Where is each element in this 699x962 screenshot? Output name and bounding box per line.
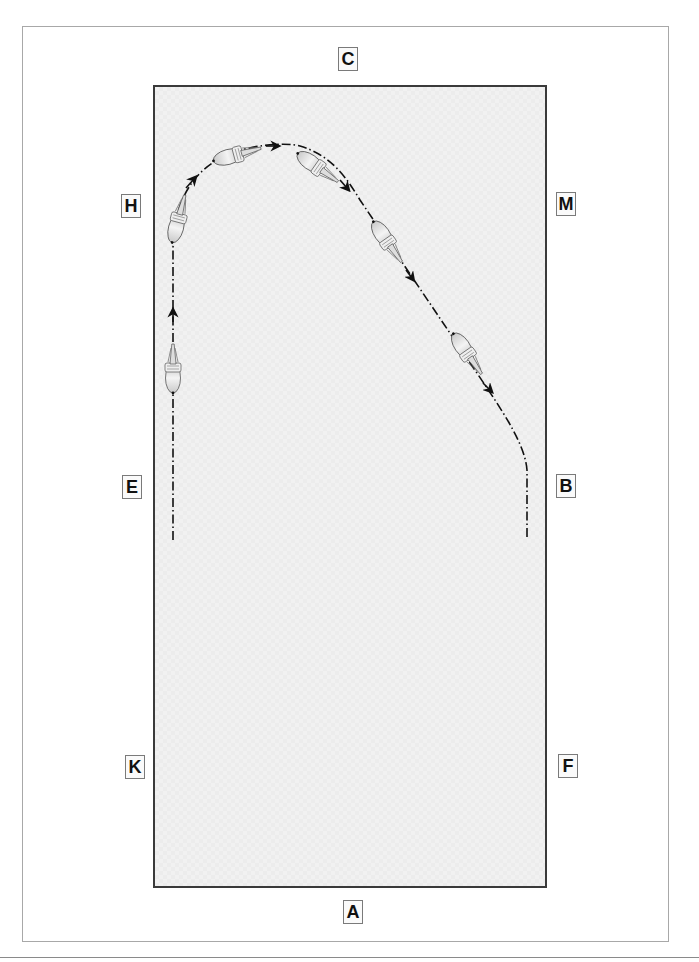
direction-arrow-icon (483, 383, 490, 390)
horse-rider-figure (446, 328, 488, 378)
horse-rider-figure (366, 216, 408, 266)
horse-rider-figure (165, 344, 181, 394)
movement-path-overlay (0, 0, 699, 962)
direction-arrow-icon (186, 179, 194, 188)
horse-rider-figure (210, 140, 263, 168)
horse-rider-figure (164, 193, 192, 246)
movement-path (173, 144, 527, 540)
direction-arrow-icon (340, 180, 347, 188)
